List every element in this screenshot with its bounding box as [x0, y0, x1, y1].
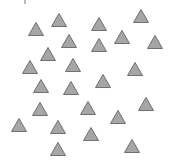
- triangle-icon: [29, 22, 44, 35]
- triangle-icon: [92, 38, 107, 51]
- triangle-icon: [96, 74, 111, 87]
- triangle-icon: [92, 17, 107, 30]
- triangle-icon: [115, 30, 130, 43]
- triangle-icon: [125, 139, 140, 152]
- triangle-icon: [41, 47, 56, 60]
- triangle-icon: [81, 101, 96, 114]
- triangle-icon: [52, 13, 67, 26]
- triangle-icon: [139, 97, 154, 110]
- triangle-field: [0, 0, 171, 161]
- triangle-icon: [34, 79, 49, 92]
- triangle-icon: [128, 62, 143, 75]
- triangle-icon: [51, 142, 66, 155]
- triangle-icon: [33, 102, 48, 115]
- triangle-icon: [84, 127, 99, 140]
- triangle-icon: [12, 118, 27, 131]
- triangle-icon: [51, 120, 66, 133]
- triangle-icon: [148, 35, 163, 48]
- triangle-icon: [134, 9, 149, 22]
- triangle-icon: [111, 110, 126, 123]
- triangle-icon: [66, 58, 81, 71]
- triangle-icon: [64, 81, 79, 94]
- triangle-icon: [23, 60, 38, 73]
- triangle-icon: [62, 34, 77, 47]
